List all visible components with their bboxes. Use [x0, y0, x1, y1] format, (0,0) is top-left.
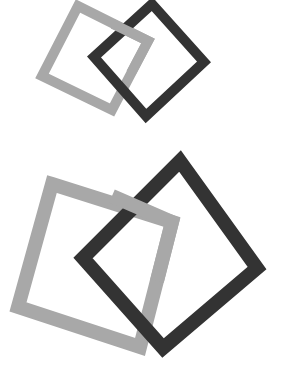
logo-canvas [0, 0, 283, 374]
logo-artwork [0, 0, 283, 374]
